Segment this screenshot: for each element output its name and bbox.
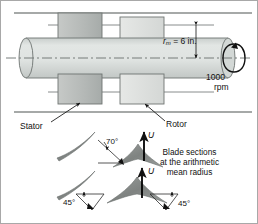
stator-block-bottom — [58, 74, 102, 104]
rotation-speed-value: 1000 — [206, 72, 229, 82]
rotation-speed-unit: rpm — [214, 82, 229, 92]
angle-70-label: 70° — [106, 137, 118, 146]
rotor-block-bottom — [120, 74, 164, 104]
mean-radius-label: rm = 6 in. — [163, 36, 197, 47]
angle-45-right-label: 45° — [178, 199, 190, 208]
rotor-label: Rotor — [166, 119, 187, 129]
rotation-speed-label: 1000 rpm — [206, 72, 229, 92]
caption-line-3: mean radius — [160, 168, 219, 178]
angle-45-left-label: 45° — [63, 198, 75, 207]
figure-canvas — [0, 0, 258, 224]
blade-speed-label-upper: U — [148, 130, 154, 140]
mean-radius-value: = 6 in. — [171, 36, 197, 46]
turbomachine-figure: rm = 6 in. 1000 rpm Stator Rotor 70° 45°… — [0, 0, 258, 224]
blade-speed-label-lower: U — [148, 166, 154, 176]
blade-section-caption: Blade sections at the arithmetic mean ra… — [160, 148, 219, 177]
stator-label: Stator — [20, 121, 43, 131]
